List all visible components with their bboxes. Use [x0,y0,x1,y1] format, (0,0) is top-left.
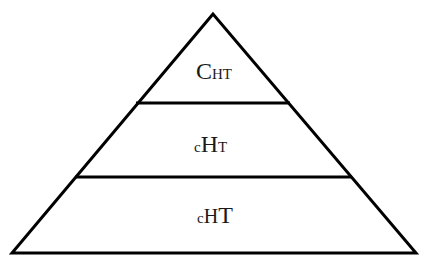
layer-label-bottom: cHT [197,203,233,227]
label-part: T [218,139,227,155]
layer-label-top: CHT [196,59,232,83]
label-part: c [194,139,201,155]
label-part: T [218,202,233,228]
label-part: H [204,205,218,227]
layer-label-middle: cHT [194,132,227,156]
label-part: H [212,66,223,82]
label-part: T [223,66,232,82]
label-part: c [197,210,204,226]
label-part: C [196,58,212,84]
label-part: H [201,131,218,157]
